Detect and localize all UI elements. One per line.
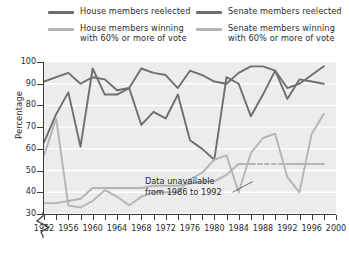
x-axis-tick <box>336 215 337 220</box>
x-axis-tick <box>129 215 130 220</box>
x-axis-tick <box>56 215 57 220</box>
x-axis-tick <box>117 215 118 220</box>
x-axis-tick <box>312 215 313 220</box>
x-axis-tick <box>44 215 45 220</box>
y-axis-title: Percentage <box>14 60 24 170</box>
y-axis-line <box>43 62 44 214</box>
y-axis-tick <box>37 127 43 128</box>
legend-label: House members reelected <box>80 6 191 17</box>
x-axis-tick <box>227 215 228 220</box>
x-axis-tick <box>105 215 106 220</box>
legend-item-senate-sixty: Senate members winning with 60% or more … <box>196 23 342 44</box>
y-axis-tick-label: 30 <box>2 209 36 218</box>
x-axis-tick <box>214 215 215 220</box>
x-axis-tick <box>239 215 240 220</box>
x-axis-tick <box>202 215 203 220</box>
legend-swatch-icon <box>196 11 222 14</box>
legend-swatch-icon <box>196 28 222 31</box>
y-axis-tick-label: 40 <box>2 187 36 196</box>
x-axis-tick <box>154 215 155 220</box>
chart-legend: House members reelected House members wi… <box>0 6 349 52</box>
x-axis-tick <box>251 215 252 220</box>
chart-figure: House members reelected House members wi… <box>0 0 349 257</box>
x-axis-tick <box>93 215 94 220</box>
legend-swatch-icon <box>48 11 74 14</box>
y-axis-tick <box>37 149 43 150</box>
x-axis-tick <box>141 215 142 220</box>
legend-item-house-reelected: House members reelected <box>48 6 191 17</box>
x-axis-tick <box>81 215 82 220</box>
chart-annotation: Data unavailable from 1986 to 1992 <box>145 176 222 198</box>
x-axis-tick-label: 2000 <box>319 224 349 233</box>
y-axis-tick <box>37 105 43 106</box>
x-axis-tick <box>190 215 191 220</box>
legend-label: House members winning with 60% or more o… <box>80 23 187 44</box>
x-axis-tick <box>68 215 69 220</box>
legend-item-senate-reelected: Senate members reelected <box>196 6 342 17</box>
y-axis-tick <box>37 84 43 85</box>
legend-label: Senate members winning with 60% or more … <box>228 23 335 44</box>
legend-item-house-sixty: House members winning with 60% or more o… <box>48 23 191 44</box>
legend-swatch-icon <box>48 28 74 31</box>
y-axis-tick <box>37 192 43 193</box>
plot-area-wrapper: 30405060708090100 Percentage Data unavai… <box>0 52 349 257</box>
x-axis-tick <box>178 215 179 220</box>
x-axis-tick <box>287 215 288 220</box>
legend-column-house: House members reelected House members wi… <box>48 6 191 50</box>
x-axis-tick <box>275 215 276 220</box>
legend-column-senate: Senate members reelected Senate members … <box>196 6 342 50</box>
y-axis-tick <box>37 62 43 63</box>
series-line <box>44 69 324 160</box>
legend-label: Senate members reelected <box>228 6 342 17</box>
x-axis-tick <box>324 215 325 220</box>
x-axis-tick <box>166 215 167 220</box>
y-axis-tick <box>37 171 43 172</box>
x-axis-tick <box>263 215 264 220</box>
x-axis-tick <box>300 215 301 220</box>
y-axis-tick <box>37 214 43 215</box>
